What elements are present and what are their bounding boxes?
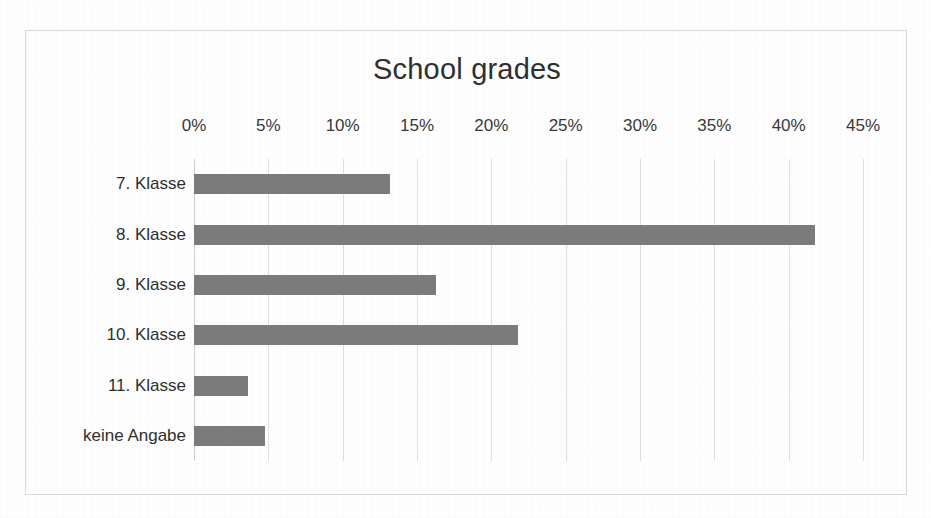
x-tick-label: 25% (549, 116, 583, 136)
x-tick-label: 0% (182, 116, 207, 136)
bar (194, 174, 390, 194)
bar (194, 275, 436, 295)
bar (194, 225, 815, 245)
category-label: 8. Klasse (26, 225, 186, 245)
x-tick-label: 5% (256, 116, 281, 136)
page-canvas: School grades 0%5%10%15%20%25%30%35%40%4… (0, 0, 931, 518)
y-axis-category-labels: 7. Klasse8. Klasse9. Klasse10. Klasse11.… (26, 159, 186, 461)
x-tick-label: 15% (400, 116, 434, 136)
x-tick-label: 40% (772, 116, 806, 136)
bar-series (194, 159, 863, 461)
chart-title: School grades (26, 53, 908, 86)
x-tick-label: 30% (623, 116, 657, 136)
category-label: keine Angabe (26, 426, 186, 446)
x-tick-label: 20% (474, 116, 508, 136)
chart-frame: School grades 0%5%10%15%20%25%30%35%40%4… (25, 30, 907, 495)
category-label: 10. Klasse (26, 325, 186, 345)
x-tick-label: 45% (846, 116, 880, 136)
x-tick-label: 35% (697, 116, 731, 136)
x-axis-tick-labels: 0%5%10%15%20%25%30%35%40%45% (26, 116, 908, 140)
category-label: 7. Klasse (26, 174, 186, 194)
category-label: 11. Klasse (26, 376, 186, 396)
bar (194, 426, 265, 446)
x-tick-label: 10% (326, 116, 360, 136)
category-label: 9. Klasse (26, 275, 186, 295)
gridline (863, 159, 864, 461)
bar (194, 376, 248, 396)
bar (194, 325, 518, 345)
